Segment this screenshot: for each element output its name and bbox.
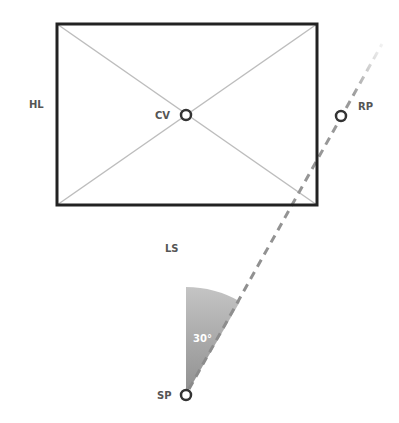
label-sp: SP <box>157 390 172 401</box>
sp-point <box>181 390 191 400</box>
label-ls: LS <box>165 243 179 254</box>
label-cv: CV <box>155 110 170 121</box>
label-rp: RP <box>358 101 373 112</box>
cv-point <box>181 110 191 120</box>
vanishing-ray <box>189 44 382 389</box>
rp-point <box>336 111 346 121</box>
perspective-diagram: HL CV RP LS SP 30° <box>0 0 399 423</box>
label-angle: 30° <box>193 333 212 344</box>
label-hl: HL <box>29 99 44 110</box>
